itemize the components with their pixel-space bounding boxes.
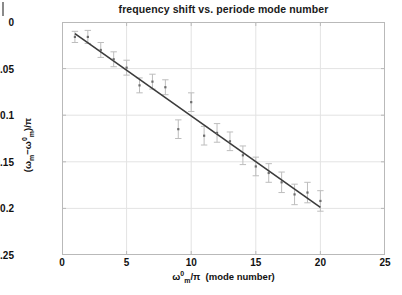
x-tick-label: 20 — [300, 257, 340, 268]
chart-figure: frequency shift vs. periode mode number … — [0, 0, 402, 295]
x-tick-label: 25 — [365, 257, 402, 268]
y-tick-label: -0.25 — [0, 250, 14, 261]
fit-line — [75, 34, 320, 208]
chart-title: frequency shift vs. periode mode number — [62, 3, 385, 15]
data-markers — [74, 36, 322, 202]
y-tick-label: -0.1 — [0, 110, 14, 121]
x-tick-label: 15 — [236, 257, 276, 268]
x-tick-label: 10 — [171, 257, 211, 268]
x-tick-label: 0 — [42, 257, 82, 268]
x-tick-label: 5 — [107, 257, 147, 268]
plot-svg — [62, 22, 385, 255]
y-tick-label: -0.2 — [0, 203, 14, 214]
plot-area — [62, 22, 385, 255]
y-tick-label: -0.15 — [0, 156, 14, 167]
y-axis-label: (ωm−ω0m)/π — [21, 70, 35, 220]
y-tick-label: 0 — [0, 17, 14, 28]
scan-artifact-mark — [2, 2, 4, 16]
x-axis-label: ω0m/π (mode number) — [62, 270, 385, 284]
y-tick-label: -0.05 — [0, 63, 14, 74]
